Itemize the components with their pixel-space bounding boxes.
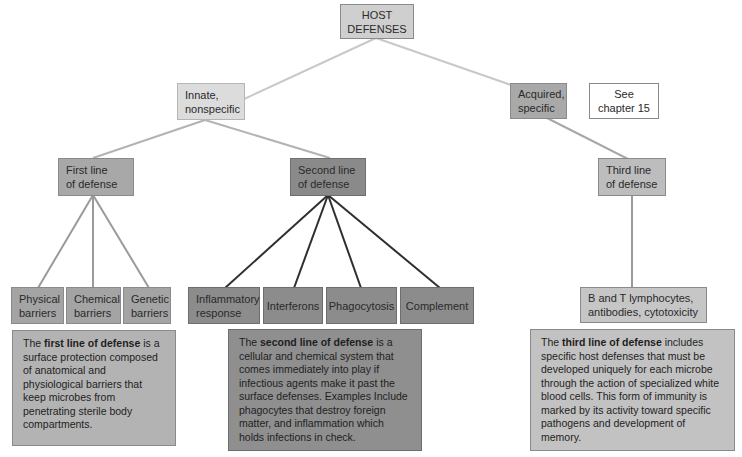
second-line-label: Second line of defense	[298, 163, 356, 191]
inflammatory-response-label: Inflammatory response	[196, 292, 260, 320]
chemical-barriers-label: Chemical barriers	[74, 292, 120, 320]
phagocytosis-node: Phagocytosis	[326, 287, 397, 324]
phagocytosis-label: Phagocytosis	[329, 299, 394, 313]
third-line-of-defense-node: Third line of defense	[598, 158, 666, 196]
second-line-description-emphasis: second line of defense	[260, 336, 373, 348]
first-line-of-defense-node: First line of defense	[58, 158, 134, 196]
innate-nonspecific-node: Innate, nonspecific	[177, 83, 245, 120]
second-line-description: The second line of defense is a cellular…	[228, 329, 422, 451]
third-line-description: The third line of defense includes speci…	[530, 329, 735, 451]
interferons-node: Interferons	[263, 287, 323, 324]
third-line-label: Third line of defense	[606, 163, 657, 191]
physical-barriers-node: Physical barriers	[11, 287, 64, 324]
host-defenses-node: HOST DEFENSES	[340, 4, 414, 39]
acquired-specific-label: Acquired, specific	[518, 87, 564, 115]
host-defenses-label: HOST DEFENSES	[347, 8, 406, 36]
acquired-specific-node: Acquired, specific	[510, 83, 567, 119]
complement-label: Complement	[406, 299, 468, 313]
interferons-label: Interferons	[267, 299, 320, 313]
lymphocytes-antibodies-label: B and T lymphocytes, antibodies, cytotox…	[588, 291, 698, 319]
complement-node: Complement	[400, 287, 474, 324]
first-line-label: First line of defense	[66, 163, 117, 191]
third-line-description-emphasis: third line of defense	[562, 336, 662, 348]
second-line-of-defense-node: Second line of defense	[290, 158, 366, 196]
genetic-barriers-node: Genetic barriers	[123, 287, 171, 324]
host-defenses-diagram: HOST DEFENSES Innate, nonspecific Acquir…	[0, 0, 742, 457]
see-chapter-note: See chapter 15	[589, 83, 659, 119]
chemical-barriers-node: Chemical barriers	[66, 287, 121, 324]
physical-barriers-label: Physical barriers	[19, 292, 60, 320]
inflammatory-response-node: Inflammatory response	[188, 287, 260, 324]
see-chapter-label: See chapter 15	[598, 87, 650, 115]
first-line-description: The first line of defense is a surface p…	[12, 330, 176, 446]
first-line-description-emphasis: first line of defense	[44, 337, 140, 349]
lymphocytes-antibodies-node: B and T lymphocytes, antibodies, cytotox…	[580, 287, 707, 323]
innate-nonspecific-label: Innate, nonspecific	[185, 88, 240, 116]
genetic-barriers-label: Genetic barriers	[131, 292, 169, 320]
